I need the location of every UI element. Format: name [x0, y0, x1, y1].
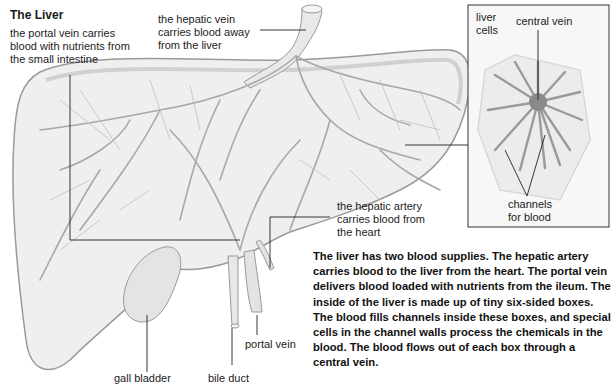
label-line: liver [476, 11, 498, 24]
inset-label-liver-cells: liver cells [476, 11, 498, 37]
label-line: blood with nutrients from [10, 40, 130, 53]
label-line: for blood [508, 211, 552, 224]
label-line: carries blood away [158, 26, 250, 39]
diagram-title: The Liver [10, 8, 63, 22]
label-line: the heart [337, 226, 425, 239]
label-bile-duct: bile duct [208, 372, 249, 385]
label-line: from the liver [158, 39, 250, 52]
label-gall-bladder: gall bladder [114, 372, 171, 385]
bile-duct-shape [228, 256, 238, 326]
portal-vein-shape [244, 250, 262, 312]
label-line: the portal vein carries [10, 27, 130, 40]
label-hepatic-artery: the hepatic artery carries blood from th… [337, 200, 425, 239]
label-line: the hepatic artery [337, 200, 425, 213]
label-line: channels [508, 198, 552, 211]
label-line: the hepatic vein [158, 13, 250, 26]
description-paragraph: The liver has two blood supplies. The he… [313, 249, 613, 371]
label-hepatic-vein: the hepatic vein carries blood away from… [158, 13, 250, 52]
label-line: the small intestine [10, 53, 130, 66]
label-line: carries blood from [337, 213, 425, 226]
label-line: cells [476, 24, 498, 37]
inset-label-central-vein: central vein [516, 15, 572, 28]
label-portal-vein-bottom: portal vein [245, 338, 296, 351]
inset-label-channels: channels for blood [508, 198, 552, 224]
label-portal-vein-top: the portal vein carries blood with nutri… [10, 27, 130, 66]
